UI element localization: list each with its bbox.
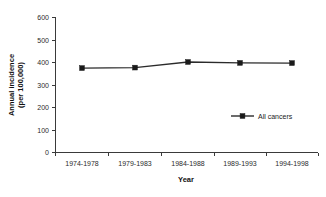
legend-marker-icon: [240, 114, 245, 119]
data-point-marker: [290, 61, 295, 66]
chart-legend: All cancers: [231, 113, 293, 120]
x-tick-marks: [56, 153, 319, 157]
y-tick-label: 0: [45, 149, 49, 156]
legend-label-all-cancers: All cancers: [258, 113, 293, 120]
x-tick-label: 1994-1998: [275, 160, 309, 167]
x-axis-title: Year: [178, 175, 194, 184]
y-tick-label: 300: [37, 82, 49, 89]
x-tick-labels: 1974-1978 1979-1983 1984-1988 1989-1993 …: [65, 160, 309, 167]
x-tick-label: 1989-1993: [223, 160, 257, 167]
y-tick-label: 600: [37, 14, 49, 21]
x-tick-label: 1979-1983: [118, 160, 152, 167]
y-tick-label: 100: [37, 127, 49, 134]
y-tick-label: 400: [37, 59, 49, 66]
data-point-marker: [186, 60, 191, 65]
data-point-marker: [133, 65, 138, 70]
y-axis-title-line1: Annual incidence: [7, 54, 16, 116]
y-tick-labels: 0 100 200 300 400 500 600: [37, 14, 49, 156]
y-tick-label: 200: [37, 104, 49, 111]
line-chart: 0 100 200 300 400 500 600 1974-1978 19: [0, 0, 326, 197]
series-markers: [80, 60, 295, 71]
y-tick-label: 500: [37, 37, 49, 44]
chart-screenshot: 0 100 200 300 400 500 600 1974-1978 19: [0, 0, 326, 197]
chart-canvas: 0 100 200 300 400 500 600 1974-1978 19: [0, 0, 326, 197]
y-tick-marks: [52, 18, 56, 153]
y-axis-title: Annual incidence (per 100,000): [7, 54, 25, 116]
data-point-marker: [80, 66, 85, 71]
y-axis-title-line2: (per 100,000): [16, 62, 25, 108]
data-point-marker: [238, 61, 243, 66]
x-tick-label: 1974-1978: [65, 160, 99, 167]
x-tick-label: 1984-1988: [171, 160, 205, 167]
